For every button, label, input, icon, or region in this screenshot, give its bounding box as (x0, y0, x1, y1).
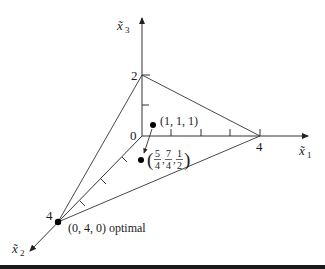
point-optimal (55, 219, 61, 225)
x1-axis-label: x̃ 1 (298, 143, 312, 160)
svg-text:2: 2 (177, 160, 182, 171)
svg-text:): ) (184, 149, 190, 171)
x2-ticks (80, 157, 127, 206)
svg-text:2: 2 (20, 248, 25, 258)
point-optimal-label: (0, 4, 0) optimal (68, 221, 146, 235)
svg-text:x̃: x̃ (11, 241, 19, 256)
x3-ticks (142, 75, 150, 105)
svg-text:,: , (162, 153, 165, 165)
origin-label: 0 (130, 128, 137, 143)
point-next-label: ( 5 4 , 7 4 , 1 2 ) (147, 148, 190, 171)
bottom-border (0, 265, 325, 269)
svg-text:4: 4 (166, 160, 171, 171)
svg-text:5: 5 (155, 148, 160, 159)
point-next (138, 157, 144, 163)
svg-text:(: ( (147, 149, 153, 171)
svg-text:1: 1 (307, 150, 312, 160)
svg-text:3: 3 (125, 25, 130, 35)
x1-tick-label: 4 (256, 139, 263, 154)
svg-text:x̃: x̃ (298, 143, 306, 158)
x2-axis-label: x̃ 2 (11, 241, 25, 258)
svg-text:1: 1 (177, 148, 182, 159)
point-start-label: (1, 1, 1) (160, 114, 198, 128)
x2-tick-label: 4 (46, 208, 53, 223)
svg-text:,: , (173, 153, 176, 165)
svg-text:7: 7 (166, 148, 171, 159)
x1-ticks (171, 129, 260, 136)
x3-tick-label: 2 (131, 68, 138, 83)
svg-text:4: 4 (155, 160, 160, 171)
svg-text:x̃: x̃ (116, 18, 124, 33)
x3-axis-label: x̃ 3 (116, 18, 130, 35)
feasible-region-diagram: x̃ 3 2 0 4 x̃ 1 4 x̃ 2 (1, 1, 1) ( 5 4 ,… (0, 0, 325, 269)
point-start (150, 122, 156, 128)
